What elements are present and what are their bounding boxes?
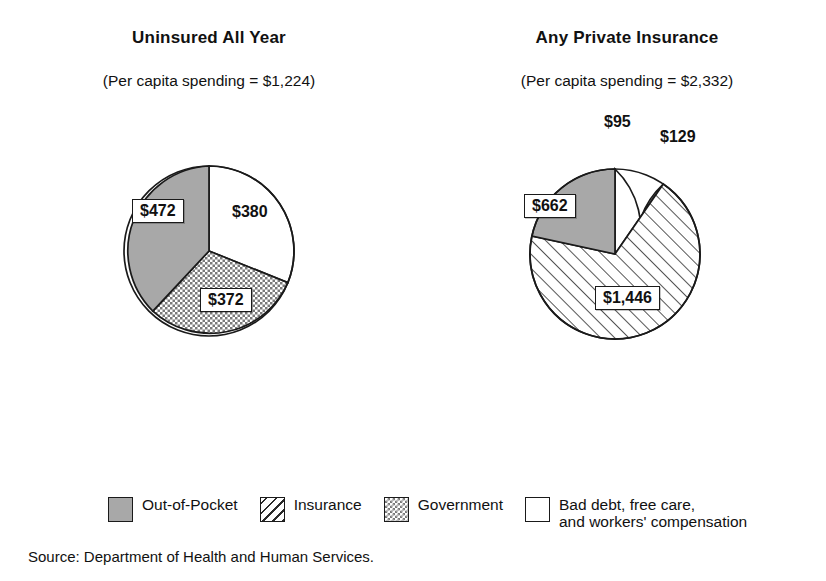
legend-label-government: Government [418,496,503,513]
pie-chart-private [527,166,707,346]
panel-title-uninsured: Uninsured All Year [84,28,334,48]
value-label-uninsured-bad-debt: $380 [232,203,268,220]
legend-swatch-out-of-pocket-icon [108,497,133,522]
panel-subtitle-private: (Per capita spending = $2,332) [472,72,782,90]
legend-item-government[interactable]: Government [384,496,503,522]
legend-swatch-insurance-icon [260,497,285,522]
figure-canvas: Uninsured All Year (Per capita spending … [0,0,826,581]
source-note: Source: Department of Health and Human S… [28,548,374,565]
legend-item-out-of-pocket[interactable]: Out-of-Pocket [108,496,238,522]
legend: Out-of-Pocket Insurance Government Bad d… [108,496,769,530]
panel-title-private: Any Private Insurance [492,28,762,48]
value-label-private-government: $129 [660,128,696,145]
legend-item-insurance[interactable]: Insurance [260,496,362,522]
pie-chart-uninsured [120,162,300,342]
value-label-private-bad-debt: $95 [604,113,631,130]
panel-subtitle-uninsured: (Per capita spending = $1,224) [64,72,354,90]
value-label-uninsured-out-of-pocket: $472 [132,199,184,223]
value-label-private-out-of-pocket: $662 [524,194,576,218]
pie-svg-private [527,166,707,346]
legend-label-out-of-pocket: Out-of-Pocket [142,496,238,513]
legend-swatch-bad-debt-icon [525,497,550,522]
value-label-private-insurance: $1,446 [595,286,660,310]
legend-label-insurance: Insurance [294,496,362,513]
legend-item-bad-debt[interactable]: Bad debt, free care, and workers' compen… [525,496,747,530]
legend-swatch-government-icon [384,497,409,522]
pie-svg-uninsured [120,162,300,342]
legend-label-bad-debt: Bad debt, free care, and workers' compen… [559,496,747,530]
value-label-uninsured-government: $372 [200,288,252,312]
